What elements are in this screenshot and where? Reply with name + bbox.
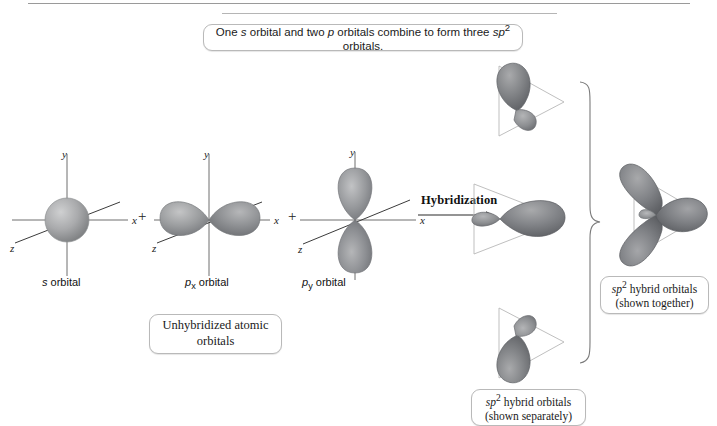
plus-sign-2: + (288, 208, 296, 225)
px-axis-x-label: x (273, 214, 279, 226)
px-axis-y-label: y (203, 148, 209, 160)
py-orbital-label: py orbital (302, 276, 346, 291)
plus-sign-1: + (138, 208, 146, 225)
s-axis-y-label: y (61, 148, 67, 160)
top-caption-box: One s orbital and two p orbitals combine… (203, 24, 523, 51)
top-caption-text: One s orbital and two p orbitals combine… (214, 22, 512, 54)
sp2-hybrid-orbital-separate-middle (456, 172, 586, 264)
px-orbital-label: px orbital (185, 276, 229, 291)
py-orbital-graphic: x y z (298, 142, 438, 284)
py-axis-y-label: y (349, 146, 355, 158)
s-orbital-label: s orbital (42, 276, 81, 288)
s-axis-z-label: z (9, 242, 15, 254)
shown-together-caption-box: sp2 hybrid orbitals (shown together) (600, 276, 709, 314)
s-axis-x-label: x (131, 214, 137, 226)
sp2-hybrid-orbital-separate-bottom (468, 296, 580, 388)
s-orbital-graphic: x y z (10, 148, 150, 280)
top-divider-rule (28, 3, 690, 4)
py-axis-z-label: z (297, 243, 303, 255)
unhybridized-caption-text: Unhybridized atomic orbitals (163, 318, 269, 349)
shown-separately-caption-text: sp2 hybrid orbitals (shown separately) (485, 392, 572, 424)
px-axis-z-label: z (151, 242, 157, 254)
sp2-hybrid-orbitals-together (598, 158, 716, 273)
shown-together-caption-text: sp2 hybrid orbitals (shown together) (612, 279, 697, 311)
shown-separately-caption-box: sp2 hybrid orbitals (shown separately) (471, 389, 586, 426)
px-orbital-graphic: x y z (152, 148, 292, 280)
unhybridized-caption-box: Unhybridized atomic orbitals (149, 314, 282, 354)
sp2-hybrid-orbital-separate-top (468, 58, 580, 150)
secondary-divider-rule (222, 13, 557, 14)
